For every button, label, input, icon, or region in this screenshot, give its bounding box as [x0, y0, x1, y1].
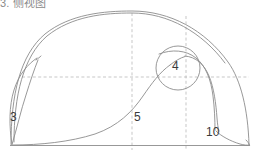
dimension-label-3: 3: [10, 111, 17, 123]
figure-container: 3. 侧视图: [0, 0, 255, 151]
dimension-label-5: 5: [134, 111, 141, 123]
right-detail-loop: [216, 131, 249, 145]
right-inner-curve-group: [159, 51, 219, 131]
outer-dome-inner-curve: [14, 13, 225, 142]
dimension-label-4: 4: [172, 60, 179, 72]
right-detail-loop-group: [216, 131, 250, 145]
left-teardrop-inner: [12, 60, 38, 145]
dimension-label-10: 10: [206, 126, 219, 138]
s-curve-group: [13, 57, 185, 146]
right-inner-sweep-secondary: [159, 51, 215, 130]
right-inner-sweep: [185, 56, 219, 131]
